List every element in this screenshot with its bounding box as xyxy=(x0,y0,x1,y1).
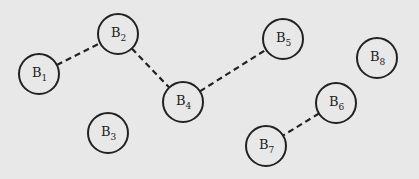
edge-b4-b5 xyxy=(200,50,266,92)
edge-b1-b2 xyxy=(57,43,100,65)
node-b5: B5 xyxy=(263,19,303,59)
node-b4: B4 xyxy=(163,82,203,122)
node-b2: B2 xyxy=(98,14,138,54)
edge-b6-b7 xyxy=(283,113,319,135)
node-b8: B8 xyxy=(357,38,397,78)
node-b7: B7 xyxy=(246,126,286,166)
node-b6: B6 xyxy=(316,83,356,123)
node-b3: B3 xyxy=(88,113,128,153)
node-b1: B1 xyxy=(19,54,59,94)
edge-b2-b4 xyxy=(132,48,169,87)
nodes-layer: B1B2B3B4B5B6B7B8 xyxy=(19,14,397,166)
node-diagram: B1B2B3B4B5B6B7B8 xyxy=(0,0,419,179)
